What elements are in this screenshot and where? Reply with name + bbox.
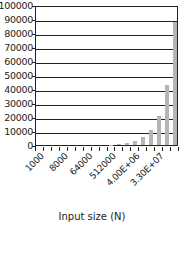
y-tick-label: 60000 [4,57,33,67]
x-tick [122,147,123,151]
x-tick [138,147,139,151]
x-tick [107,147,108,151]
x-tick [170,147,171,151]
bar [125,143,129,145]
gridline [36,63,177,64]
gridline [36,21,177,22]
gridline [36,49,177,50]
x-tick [75,147,76,151]
x-tick [67,147,68,151]
bar [173,22,177,145]
gridline [36,105,177,106]
x-tick [146,147,147,151]
x-axis-title: Input size (N) [0,211,184,222]
bar [165,85,169,145]
y-tick-label: 10000 [4,127,33,137]
bar-chart: Input size (N) 0100002000030000400005000… [0,0,184,258]
x-tick [91,147,92,151]
bar [117,144,121,145]
x-tick [130,147,131,151]
x-tick [59,147,60,151]
gridline [36,91,177,92]
bar [157,116,161,145]
gridline [36,35,177,36]
x-tick [83,147,84,151]
y-tick-label: 40000 [4,85,33,95]
bar [141,137,145,145]
y-tick-label: 100000 [0,1,33,11]
x-tick [51,147,52,151]
x-tick [35,147,36,151]
x-tick [43,147,44,151]
x-tick [178,147,179,151]
x-tick [162,147,163,151]
y-tick-label: 80000 [4,29,33,39]
gridline [36,133,177,134]
bar [133,141,137,145]
y-tick-label: 70000 [4,43,33,53]
gridline [36,77,177,78]
gridline [36,119,177,120]
x-tick-label: 1000 [24,151,46,173]
y-tick-label: 90000 [4,15,33,25]
x-tick-label: 8000 [47,151,69,173]
plot-area [35,6,178,146]
y-tick-label: 20000 [4,113,33,123]
x-tick [114,147,115,151]
x-tick [154,147,155,151]
y-tick-label: 30000 [4,99,33,109]
y-tick-label: 50000 [4,71,33,81]
bar [149,130,153,145]
x-tick [99,147,100,151]
y-tick-label: 0 [27,141,33,151]
